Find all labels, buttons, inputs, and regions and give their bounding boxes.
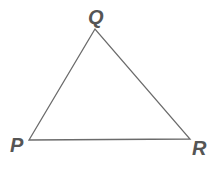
- triangle-diagram: Q P R: [0, 0, 210, 176]
- vertex-label-q: Q: [88, 6, 104, 28]
- vertex-label-r: R: [192, 137, 207, 159]
- vertex-label-p: P: [10, 134, 24, 156]
- triangle-pqr: [29, 29, 190, 140]
